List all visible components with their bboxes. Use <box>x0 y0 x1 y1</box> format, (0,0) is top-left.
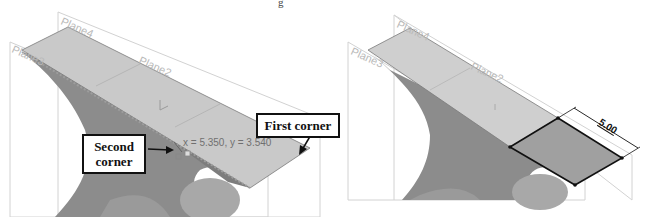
first-corner-label: First corner <box>265 118 332 133</box>
left-model-view: Plane4 Plane3 Plane2 x = 5.350, y = 3.54… <box>0 0 330 217</box>
dimension-value[interactable]: 5.00 <box>597 116 620 136</box>
anvil-hole <box>512 174 568 210</box>
second-corner-label-line1: Second <box>84 139 144 154</box>
left-viewport[interactable]: Plane4 Plane3 Plane2 x = 5.350, y = 3.54… <box>0 0 330 217</box>
cursor-coordinates: x = 5.350, y = 3.540 <box>183 137 272 148</box>
right-viewport[interactable]: 5.00 Plane4 Plane3 Plane2 <box>330 0 653 217</box>
first-corner-callout: First corner <box>256 113 340 138</box>
right-model-view: 5.00 Plane4 Plane3 Plane2 <box>330 0 653 217</box>
second-corner-label-line2: corner <box>84 154 144 169</box>
second-corner-callout: Second corner <box>82 134 146 174</box>
